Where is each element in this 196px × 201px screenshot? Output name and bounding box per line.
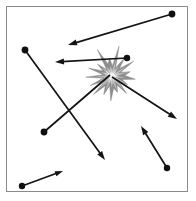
vector-7-origin-dot <box>19 183 25 189</box>
vector-5-arrowhead <box>168 112 177 119</box>
vector-4-arrowhead <box>55 59 64 65</box>
bottom-left-short-arrow <box>19 171 63 189</box>
burst-to-lower-right-arrow <box>112 77 177 119</box>
diagram-canvas <box>0 0 196 201</box>
vector-3-origin-dot <box>41 129 48 136</box>
vector-5-shaft <box>112 77 171 115</box>
vector-7-arrowhead <box>55 171 63 176</box>
vector-diagram-svg <box>0 0 196 201</box>
vector-2-shaft <box>25 50 101 155</box>
vector-3-shaft <box>44 75 110 132</box>
vector-6-shaft <box>145 132 167 168</box>
vector-arrows-group <box>19 11 177 190</box>
top-incoming-arrow <box>68 11 175 46</box>
vector-1-origin-dot <box>169 11 176 18</box>
vector-7-shaft <box>22 173 57 186</box>
vector-4-origin-dot <box>124 55 130 61</box>
burst-to-left-arrow <box>55 55 130 65</box>
impact-starburst <box>86 46 136 101</box>
vector-2-origin-dot <box>22 47 29 54</box>
lower-right-upward-arrow <box>141 126 170 171</box>
vector-6-arrowhead <box>141 126 148 135</box>
lower-left-to-burst-arrow <box>41 75 110 135</box>
vector-1-shaft <box>74 14 172 43</box>
vector-6-origin-dot <box>164 165 170 171</box>
vector-4-shaft <box>62 58 127 62</box>
vector-1-arrowhead <box>68 40 77 46</box>
